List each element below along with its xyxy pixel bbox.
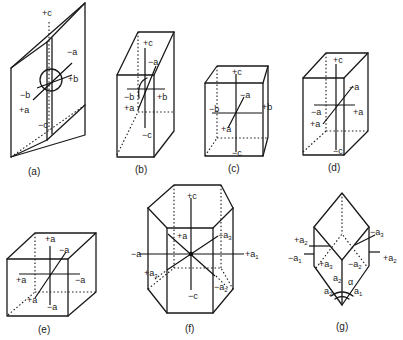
panel-e-label-minus-a-back: −a (59, 245, 69, 255)
panel-f-label-minus-a2: −a2 (214, 282, 228, 293)
panel-g-caption: (g) (336, 321, 348, 332)
panel-g-label-plus-a3: +a3 (319, 259, 333, 270)
panel-g-label-plus-a2-left: +a2 (294, 235, 308, 246)
panel-d-label-minus-c: −c (333, 146, 343, 156)
panel-d-caption: (d) (328, 162, 340, 173)
panel-f-caption: (f) (185, 323, 194, 334)
panel-e-label-minus-a-right: −a (75, 275, 85, 285)
panel-d-label-plus-c: +c (333, 55, 343, 65)
panel-d-right-face (344, 53, 368, 155)
panel-f-hexagonal: +c −c +a −a −a3 +a1 +a3 −a2 (f) (131, 185, 259, 334)
crystal-axes-figure: +c −c −a +a +b −b (a) +c −c −a +a +b −b … (0, 0, 403, 340)
panel-b-angle-arc (139, 78, 147, 98)
panel-e-label-minus-a-bottom: −a (47, 302, 57, 312)
panel-c-label-plus-c: +c (232, 67, 242, 77)
panel-a-label-plus-c: +c (42, 8, 52, 18)
panel-c-label-plus-b: +b (262, 102, 272, 112)
panel-e-caption: (e) (38, 324, 50, 335)
panel-f-label-minus-c: −c (188, 291, 198, 301)
panel-c-hidden-diag (205, 138, 217, 156)
panel-e-label-plus-a-front: +a (27, 295, 37, 305)
panel-a-b-axis (37, 75, 72, 88)
panel-g-label-a1: a1 (354, 286, 363, 297)
panel-g-label-alpha: α (348, 277, 353, 287)
panel-b-label-minus-c: −c (142, 130, 152, 140)
panel-c-label-plus-a: +a (221, 124, 231, 134)
panel-c-label-minus-c: −c (232, 148, 242, 158)
panel-e-cubic: +a −a −a +a +a −a (e) (7, 233, 96, 335)
panel-b-label-minus-b: −b (124, 92, 134, 102)
panel-b-caption: (b) (135, 164, 147, 175)
panel-a-caption: (a) (28, 166, 40, 177)
panel-f-label-plus-a3: +a3 (144, 268, 158, 279)
panel-f-label-plus-a: +a (177, 231, 187, 241)
panel-g-label-minus-a1: −a1 (288, 253, 302, 264)
panel-a-label-minus-a: −a (67, 47, 77, 57)
panel-a-label-minus-c: −c (38, 120, 48, 130)
panel-g-front-v (314, 227, 369, 260)
panel-f-label-plus-c: +c (187, 191, 197, 201)
panel-f-label-plus-a1: +a1 (245, 249, 259, 260)
panel-b-hidden-diag (117, 112, 138, 155)
panel-c-front-face (205, 83, 263, 156)
panel-g-label-a2-low: a2 (324, 286, 333, 297)
panel-f-label-minus-a3: −a3 (218, 230, 232, 241)
panel-a-label-plus-a: +a (19, 105, 29, 115)
panel-d-front-face (303, 78, 344, 155)
panel-d-label-plus-a-front: +a (310, 119, 320, 129)
panel-g-label-minus-a2: −a2 (348, 259, 362, 270)
panel-c-label-minus-a: −a (240, 90, 250, 100)
panel-a-label-minus-b: −b (20, 90, 30, 100)
panel-d-label-minus-a-left: −a (311, 107, 321, 117)
panel-b-label-plus-c: +c (143, 38, 153, 48)
panel-b-label-plus-b: +b (157, 92, 167, 102)
panel-d-label-plus-a-right: +a (353, 107, 363, 117)
panel-b-label-plus-a: +a (124, 103, 134, 113)
panel-d-hidden-diag (303, 131, 326, 152)
panel-a-top-edge (47, 3, 85, 42)
panel-f-label-minus-a: −a (131, 249, 141, 259)
panel-c-orthorhombic: +c −c −a +a +b −b (c) (205, 66, 272, 174)
panel-b-a-axis (138, 66, 156, 110)
panel-g-rhombohedral: +a2 −a1 −a3 +a2 +a3 −a2 a2 a2 a1 α (g) (288, 193, 397, 332)
panel-c-label-minus-b: −b (209, 104, 219, 114)
panel-g-label-minus-a3: −a3 (370, 227, 384, 238)
panel-c-caption: (c) (228, 163, 240, 174)
panel-a-label-plus-b: +b (68, 74, 78, 84)
panel-f-origin-dot (189, 252, 193, 256)
panel-b-label-minus-a: −a (148, 57, 158, 67)
panel-g-edges (314, 193, 369, 305)
panel-d-label-minus-a-back: −a (349, 82, 359, 92)
panel-g-label-plus-a2-right: +a2 (383, 253, 397, 264)
panel-e-label-plus-a-top: +a (45, 234, 55, 244)
panel-b-monoclinic: +c −c −a +a +b −b (b) (117, 32, 174, 175)
panel-a-triclinic: +c −c −a +a +b −b (a) (11, 3, 85, 177)
panel-a-bottom-edge (47, 105, 85, 140)
panel-g-label-a2-mid: a2 (333, 273, 342, 284)
panel-e-label-plus-a-left: +a (16, 275, 26, 285)
panel-d-tetragonal: +c −c −a +a +a −a (d) (303, 53, 368, 173)
